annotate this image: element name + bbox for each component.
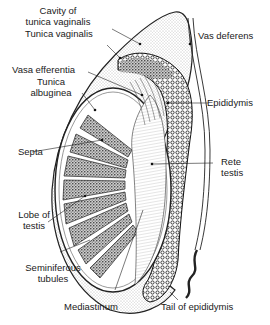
- label-cavity-tunica-vaginalis: Cavity of tunica vaginalis: [18, 6, 98, 27]
- label-line: Tunica: [26, 77, 76, 88]
- label-vas-deferens: Vas deferens: [198, 31, 253, 42]
- label-vasa-efferentia: Vasa efferentia: [12, 65, 75, 76]
- label-tunica-vaginalis: Tunica vaginalis: [25, 29, 93, 40]
- label-tail-of-epididymis: Tail of epididymis: [161, 302, 233, 313]
- label-line: tunica vaginalis: [18, 17, 98, 28]
- label-line: Rete: [221, 157, 243, 168]
- label-line: tubules: [18, 274, 88, 285]
- testis: [55, 76, 171, 292]
- label-rete-testis: Rete testis: [221, 157, 243, 178]
- label-line: Lobe of: [14, 210, 54, 221]
- label-lobe-of-testis: Lobe of testis: [14, 210, 54, 231]
- label-mediastinum: Mediastinum: [64, 302, 118, 313]
- label-tunica-albuginea: Tunica albuginea: [26, 77, 76, 98]
- label-septa: Septa: [18, 147, 43, 158]
- label-line: albuginea: [26, 88, 76, 99]
- label-seminiferous-tubules: Seminiferous tubules: [18, 263, 88, 284]
- label-line: testis: [221, 168, 243, 179]
- label-epididymis: Epididymis: [207, 98, 253, 109]
- label-line: Cavity of: [18, 6, 98, 17]
- label-line: Seminiferous: [18, 263, 88, 274]
- label-line: testis: [14, 221, 54, 232]
